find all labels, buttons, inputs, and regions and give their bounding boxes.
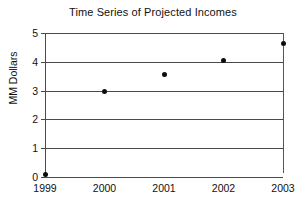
gridline-y: [45, 119, 283, 120]
error-bar: [283, 33, 284, 173]
y-axis-tick-label: 1: [23, 143, 38, 153]
y-axis-tick: [41, 177, 46, 178]
y-axis-tick-label: 3: [23, 86, 38, 96]
y-axis-label: MM Dollars: [7, 33, 19, 123]
gridline-y: [45, 91, 283, 92]
chart-title: Time Series of Projected Incomes: [0, 6, 306, 18]
data-point: [221, 58, 226, 63]
y-axis-line: [45, 33, 46, 178]
x-axis-tick-label: 1999: [23, 183, 67, 194]
y-axis-tick: [41, 119, 46, 120]
y-axis-tick: [41, 33, 46, 34]
y-axis-tick: [41, 62, 46, 63]
chart-figure: Time Series of Projected Incomes MM Doll…: [0, 0, 306, 203]
x-axis-tick-label: 2003: [261, 183, 305, 194]
data-point: [162, 72, 167, 77]
plot-area: 01234519992000200120022003: [45, 33, 283, 177]
y-axis-tick-label: 2: [23, 114, 38, 124]
gridline-y: [45, 33, 283, 34]
data-point: [281, 41, 286, 46]
y-axis-tick: [41, 91, 46, 92]
x-axis-tick-label: 2001: [142, 183, 186, 194]
x-axis-tick-label: 2000: [83, 183, 127, 194]
y-axis-tick-label: 4: [23, 57, 38, 67]
data-point: [102, 89, 107, 94]
y-axis-tick: [41, 148, 46, 149]
y-axis-tick-label: 5: [23, 28, 38, 38]
gridline-y: [45, 62, 283, 63]
x-axis-tick-label: 2002: [202, 183, 246, 194]
y-axis-tick-label: 0: [23, 172, 38, 182]
x-axis-line: [45, 177, 283, 178]
gridline-y: [45, 148, 283, 149]
